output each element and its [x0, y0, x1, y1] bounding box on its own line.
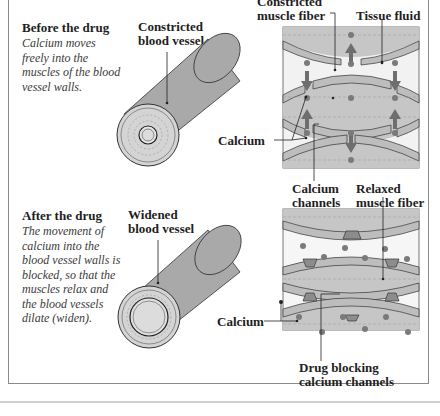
leader-lines — [0, 0, 440, 416]
